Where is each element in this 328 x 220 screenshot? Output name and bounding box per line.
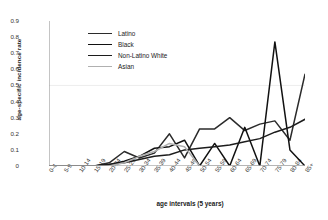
legend-item: Latino [88, 28, 167, 39]
legend-label: Non-Latino White [118, 52, 167, 59]
y-tick-label: 0.1 [0, 146, 19, 153]
x-axis-title: age intervals (5 years) [110, 200, 270, 207]
y-tick-label: 0.5 [0, 81, 19, 88]
legend-swatch-icon [88, 44, 112, 45]
y-tick-label: 0.9 [0, 17, 19, 24]
legend: LatinoBlackNon-Latino WhiteAsian [88, 28, 167, 72]
y-tick-label: 0 [0, 162, 19, 169]
x-tick-label: 85+ [304, 162, 315, 174]
legend-item: Non-Latino White [88, 50, 167, 61]
legend-swatch-icon [88, 66, 112, 67]
legend-label: Black [118, 41, 134, 48]
legend-item: Black [88, 39, 167, 50]
legend-swatch-icon [88, 33, 112, 34]
y-tick-label: 0.3 [0, 114, 19, 121]
legend-item: Asian [88, 61, 167, 72]
y-tick-label: 0.4 [0, 98, 19, 105]
legend-label: Latino [118, 30, 135, 37]
y-tick-label: 0.2 [0, 130, 19, 137]
y-tick-label: 0.6 [0, 65, 19, 72]
legend-swatch-icon [88, 55, 112, 56]
chart-figure: age-specific incidence rate age interval… [0, 0, 328, 220]
y-tick-label: 0.8 [0, 33, 19, 40]
legend-label: Asian [118, 63, 134, 70]
y-tick-label: 0.7 [0, 49, 19, 56]
